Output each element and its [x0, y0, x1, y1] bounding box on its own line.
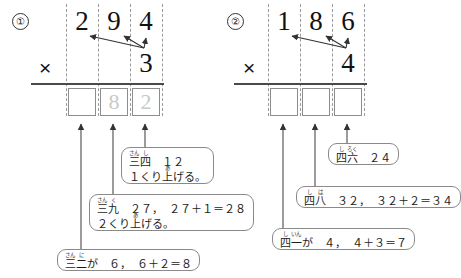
column-guide-p1-c [130, 4, 131, 116]
p2-answer-box-ones[interactable] [334, 88, 362, 116]
callout-2-ones-line-1: 四し一いんが ４， ４＋３＝７ [280, 231, 407, 246]
column-guide-p2-b [300, 4, 301, 116]
callout-1-ones: 三さん二にが ６， ６＋２＝８ [57, 249, 200, 271]
ruby-shiha: 四し八は [304, 195, 326, 207]
column-guide-p1-a [66, 4, 67, 116]
ruby-shiin: 四し一いん [280, 237, 302, 249]
callout-2-tens-line-1: 四し八は ３２， ３２＋２＝３４ [304, 189, 453, 204]
p1-multiplicand-digit-tens: 9 [101, 8, 127, 35]
p1-answer-box-tens[interactable]: 8 [100, 88, 128, 116]
p2-multiplicand-digit-tens: 8 [303, 8, 329, 35]
column-guide-p1-d [162, 4, 163, 116]
p2-multiplicand-digit-hundreds: 1 [271, 8, 297, 35]
p2-callout-connectors [283, 124, 347, 230]
p1-operator: × [39, 57, 51, 78]
problem-1-marker: ① [12, 13, 29, 30]
callout-2-ones: 四し一いんが ４， ４＋３＝７ [272, 228, 415, 250]
callout-2-hundreds: 四し六ろく ２４ [328, 143, 399, 165]
p2-answer-box-hundreds[interactable] [270, 88, 298, 116]
p1-multiplicand-digit-hundreds: 2 [69, 8, 95, 35]
callout-1-tens: 三さん九く ２７， ２７＋１＝２８ ２くり上あげる。 [89, 194, 254, 231]
ruby-age: 上あ [162, 171, 173, 183]
ruby-sanku: 三さん九く [97, 203, 119, 215]
column-guide-p1-b [98, 4, 99, 116]
p2-answer-box-tens[interactable] [302, 88, 330, 116]
ruby-shiroku: 四し六ろく [336, 152, 358, 164]
column-guide-p2-c [332, 4, 333, 116]
p2-multiplicand-digit-ones: 6 [335, 8, 361, 35]
p1-multiplicand-digit-ones: 4 [133, 8, 159, 35]
p1-answer-rule [31, 83, 164, 85]
callout-1-tens-line-1: 三さん九く ２７， ２７＋１＝２８ [97, 197, 246, 212]
p1-answer-box-hundreds[interactable] [68, 88, 96, 116]
callout-1-ones-line-1: 三さん二にが ６， ６＋２＝８ [65, 252, 192, 267]
problem-2-marker: ② [227, 13, 244, 30]
p1-multiplier: 3 [133, 50, 159, 77]
callout-2-tens: 四し八は ３２， ３２＋２＝３４ [296, 186, 461, 208]
p2-answer-rule [234, 83, 367, 85]
callout-1-hundreds-line-1: 三さん四し １２ [129, 150, 206, 165]
column-guide-p2-d [364, 4, 365, 116]
callout-2-hundreds-line-1: 四し六ろく ２４ [336, 146, 391, 161]
p2-operator: × [243, 57, 255, 78]
callout-1-hundreds: 三さん四し １２ １くり上あげる。 [121, 147, 214, 184]
column-guide-p2-a [268, 4, 269, 116]
ruby-sanshi: 三さん四し [129, 156, 151, 168]
p1-answer-box-ones[interactable]: 2 [132, 88, 160, 116]
p2-multiplier: 4 [335, 50, 361, 77]
ruby-sanni: 三さん二に [65, 258, 87, 270]
ruby-age-2: 上あ [130, 218, 141, 230]
